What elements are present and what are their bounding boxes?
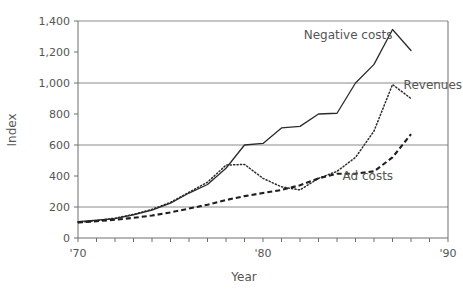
line-chart: 02004006008001,0001,2001,400 '70'80'90 N…: [0, 0, 463, 289]
series-label-revenues: Revenues: [404, 78, 463, 92]
y-tick-label-400: 400: [49, 170, 70, 183]
x-tick-label-1980: '80: [254, 247, 271, 260]
y-tick-label-1400: 1,400: [39, 15, 71, 28]
series-line-revenues: [78, 85, 411, 223]
y-tick-label-1000: 1,000: [39, 77, 71, 90]
series-label-ad-costs: Ad costs: [343, 169, 394, 183]
y-axis-ticks-group: [74, 21, 78, 238]
x-tick-label-1970: '70: [69, 247, 86, 260]
x-axis-ticks-group: [78, 238, 448, 242]
series-paths-group: [78, 30, 411, 223]
series-label-negative-costs: Negative costs: [304, 28, 393, 42]
x-tick-label-1990: '90: [439, 247, 456, 260]
y-tick-label-0: 0: [63, 232, 70, 245]
y-axis-tick-labels-group: 02004006008001,0001,2001,400: [39, 15, 71, 245]
series-line-negative-costs: [78, 30, 411, 222]
y-tick-label-800: 800: [49, 108, 70, 121]
x-axis-title: Year: [230, 270, 256, 284]
y-tick-label-200: 200: [49, 201, 70, 214]
x-axis-tick-labels-group: '70'80'90: [69, 247, 456, 260]
series-labels-group: Negative costsRevenuesAd costs: [304, 28, 462, 183]
chart-canvas: 02004006008001,0001,2001,400 '70'80'90 N…: [0, 0, 463, 289]
y-tick-label-1200: 1,200: [39, 46, 71, 59]
y-tick-label-600: 600: [49, 139, 70, 152]
y-axis-title: Index: [5, 113, 19, 146]
